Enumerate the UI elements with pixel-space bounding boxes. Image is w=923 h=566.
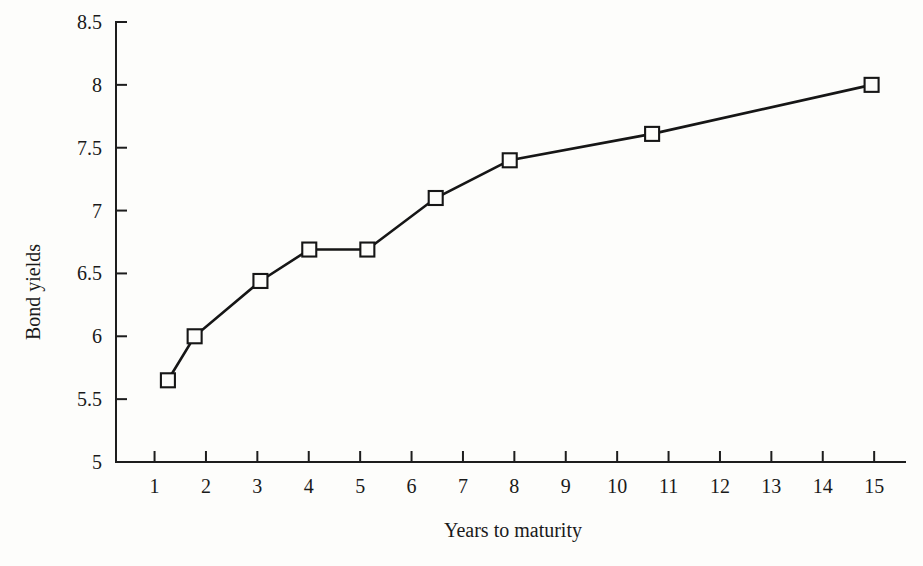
y-tick-label-7.5: 7.5 [77, 137, 102, 159]
data-point-marker [360, 243, 374, 257]
y-tick-label-7: 7 [92, 200, 102, 222]
x-tick-label-6: 6 [407, 475, 417, 497]
x-tick-label-7: 7 [458, 475, 468, 497]
y-tick-label-6.5: 6.5 [77, 262, 102, 284]
y-axis-ticks [116, 22, 127, 462]
y-tick-label-6: 6 [92, 325, 102, 347]
data-point-marker [161, 373, 175, 387]
data-point-marker [865, 78, 879, 92]
x-tick-label-15: 15 [864, 475, 884, 497]
x-tick-label-5: 5 [355, 475, 365, 497]
data-point-marker [188, 329, 202, 343]
x-tick-label-4: 4 [304, 475, 314, 497]
data-point-marker [302, 243, 316, 257]
bond-yield-line-chart: 55.566.577.588.5 123456789101112131415 B… [0, 0, 923, 566]
x-tick-label-11: 11 [659, 475, 678, 497]
y-axis-title: Bond yields [22, 244, 45, 340]
data-point-marker [429, 191, 443, 205]
x-tick-label-14: 14 [813, 475, 833, 497]
chart-page: 55.566.577.588.5 123456789101112131415 B… [0, 0, 923, 566]
x-tick-label-13: 13 [761, 475, 781, 497]
x-tick-label-10: 10 [607, 475, 627, 497]
x-tick-label-1: 1 [150, 475, 160, 497]
data-point-marker [253, 274, 267, 288]
y-tick-label-8.5: 8.5 [77, 11, 102, 33]
y-tick-label-5.5: 5.5 [77, 388, 102, 410]
y-tick-label-8: 8 [92, 74, 102, 96]
x-tick-label-8: 8 [509, 475, 519, 497]
y-axis-tick-labels: 55.566.577.588.5 [77, 11, 102, 473]
data-point-marker [645, 127, 659, 141]
x-axis-title: Years to maturity [444, 519, 582, 542]
series-markers [161, 78, 879, 387]
data-point-marker [503, 153, 517, 167]
x-axis-ticks [155, 451, 875, 462]
x-tick-label-12: 12 [710, 475, 730, 497]
x-tick-label-3: 3 [252, 475, 262, 497]
chart-axes [116, 22, 905, 462]
series-line-bond-yields [168, 85, 872, 380]
x-tick-label-2: 2 [201, 475, 211, 497]
x-axis-tick-labels: 123456789101112131415 [150, 475, 885, 497]
y-tick-label-5: 5 [92, 451, 102, 473]
x-tick-label-9: 9 [561, 475, 571, 497]
